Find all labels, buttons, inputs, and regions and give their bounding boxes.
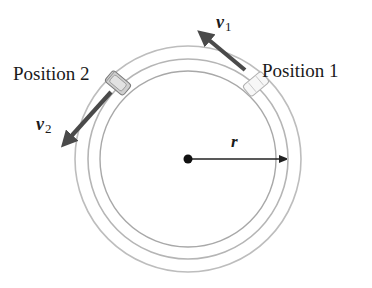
radius-vector [184, 155, 287, 164]
circular-motion-diagram: Position 2 Position 1 v1 v2 r [0, 0, 372, 288]
velocity-1-label: v1 [216, 12, 232, 35]
velocity-2-symbol: v [36, 114, 44, 134]
velocity-2-subscript: 2 [45, 121, 52, 136]
velocity-arrow-2 [66, 92, 111, 142]
center-dot-icon [184, 155, 193, 164]
diagram-canvas [0, 0, 372, 288]
velocity-arrow-1 [203, 35, 245, 70]
radius-label: r [231, 132, 238, 152]
velocity-1-subscript: 1 [225, 19, 232, 34]
position-1-label: Position 1 [262, 60, 339, 82]
velocity-1-symbol: v [216, 12, 224, 32]
velocity-2-label: v2 [36, 114, 52, 137]
position-2-label: Position 2 [13, 63, 90, 85]
